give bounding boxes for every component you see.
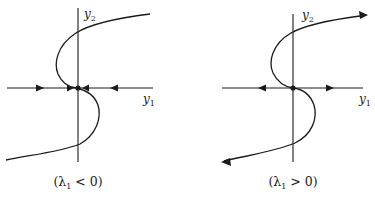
panel-unstable: y2 y1 (λ1 > 0)	[221, 8, 371, 191]
arrow-right-icon	[326, 85, 334, 92]
arrow-left-icon	[110, 85, 118, 92]
y2-label: y2	[301, 8, 314, 24]
equilibrium-point	[290, 85, 295, 90]
arrow-curve-in-left-icon	[67, 85, 74, 92]
phase-portrait-figure: y2 y1 (λ1 < 0) y2 y1 (λ1 > 0)	[0, 0, 375, 197]
arrow-down-left-icon	[221, 158, 231, 166]
y1-label: y1	[142, 92, 155, 108]
caption-stable: (λ1 < 0)	[53, 174, 102, 191]
panel-stable: y2 y1 (λ1 < 0)	[6, 7, 155, 191]
arrow-left-icon	[258, 85, 266, 92]
arrow-right-icon	[36, 85, 44, 92]
arrow-up-right-icon	[359, 11, 368, 19]
y1-label: y1	[358, 92, 371, 108]
y2-label: y2	[83, 7, 96, 23]
equilibrium-point	[75, 85, 80, 90]
caption-unstable: (λ1 > 0)	[268, 174, 317, 191]
